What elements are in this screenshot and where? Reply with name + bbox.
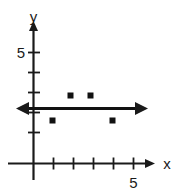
y-axis-label: y [30, 8, 38, 25]
y-axis [28, 21, 40, 180]
arrow-left-icon [16, 102, 29, 115]
x-axis-tick-label-5: 5 [129, 174, 137, 191]
plot-canvas: y x 5 5 [0, 0, 176, 196]
arrow-right-icon [145, 159, 155, 168]
scatter-plot-figure: y x 5 5 [0, 0, 176, 196]
x-axis-label: x [163, 155, 171, 172]
y-axis-tick-label-5: 5 [17, 44, 25, 61]
data-point [88, 93, 94, 99]
data-point [50, 118, 56, 124]
arrow-right-icon [135, 102, 148, 115]
x-axis [8, 158, 155, 170]
data-point [110, 118, 116, 124]
data-point [68, 93, 74, 99]
